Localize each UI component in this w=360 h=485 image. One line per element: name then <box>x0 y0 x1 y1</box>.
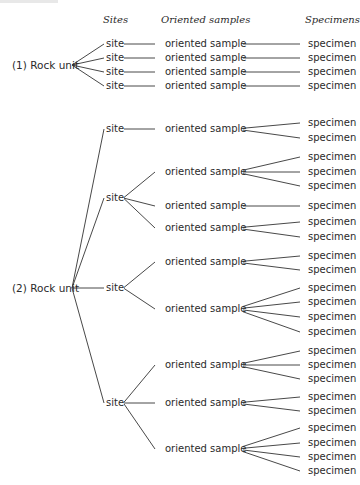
sample-to-specimen-line <box>243 312 300 332</box>
specimen-node: specimen <box>308 216 356 228</box>
site-node: site <box>106 123 124 135</box>
oriented-sample-node: oriented sample <box>165 80 246 92</box>
sample-to-specimen-line <box>243 229 300 237</box>
specimen-node: specimen <box>308 264 356 276</box>
specimen-node: specimen <box>308 80 356 92</box>
oriented-sample-node: oriented sample <box>165 200 246 212</box>
specimen-node: specimen <box>308 296 356 308</box>
specimen-node: specimen <box>308 166 356 178</box>
rock-to-site-line <box>72 198 104 288</box>
specimen-node: specimen <box>308 311 356 323</box>
specimen-node: specimen <box>308 465 356 477</box>
oriented-sample-node: oriented sample <box>165 66 246 78</box>
oriented-sample-node: oriented sample <box>165 359 246 371</box>
sample-to-specimen-line <box>243 123 300 128</box>
site-to-sample-line <box>124 365 155 402</box>
sample-to-specimen-line <box>243 157 300 170</box>
specimen-node: specimen <box>308 437 356 449</box>
site-to-sample-line <box>124 262 155 287</box>
specimen-node: specimen <box>308 282 356 294</box>
specimen-node: specimen <box>308 250 356 262</box>
sample-to-specimen-line <box>243 397 300 402</box>
oriented-sample-node: oriented sample <box>165 222 246 234</box>
sample-to-specimen-line <box>243 452 300 471</box>
specimen-node: specimen <box>308 200 356 212</box>
specimen-node: specimen <box>308 151 356 163</box>
rock-unit-1: (1) Rock unit <box>12 59 79 71</box>
specimen-node: specimen <box>308 451 356 463</box>
sample-to-specimen-line <box>243 174 300 186</box>
oriented-sample-node: oriented sample <box>165 303 246 315</box>
site-to-sample-line <box>124 288 155 309</box>
sample-to-specimen-line <box>243 263 300 270</box>
oriented-sample-node: oriented sample <box>165 443 246 455</box>
specimen-node: specimen <box>308 405 356 417</box>
specimen-node: specimen <box>308 132 356 144</box>
site-to-sample-line <box>124 199 155 228</box>
site-to-sample-line <box>124 172 155 197</box>
specimen-node: specimen <box>308 422 356 434</box>
site-node: site <box>106 192 124 204</box>
site-to-sample-line <box>124 198 155 206</box>
oriented-sample-node: oriented sample <box>165 397 246 409</box>
site-node: site <box>106 52 124 64</box>
specimen-node: specimen <box>308 391 356 403</box>
site-node: site <box>106 397 124 409</box>
rock-to-site-line <box>72 129 104 288</box>
rock-unit-2: (2) Rock unit <box>12 282 79 294</box>
specimen-node: specimen <box>308 345 356 357</box>
rock-to-site-line <box>72 288 104 403</box>
site-node: site <box>106 38 124 50</box>
specimen-node: specimen <box>308 373 356 385</box>
site-node: site <box>106 282 124 294</box>
site-node: site <box>106 80 124 92</box>
site-node: site <box>106 66 124 78</box>
oriented-sample-node: oriented sample <box>165 256 246 268</box>
oriented-sample-node: oriented sample <box>165 38 246 50</box>
specimen-node: specimen <box>308 38 356 50</box>
sample-to-specimen-line <box>243 288 300 306</box>
site-to-sample-line <box>124 404 155 449</box>
specimen-node: specimen <box>308 359 356 371</box>
oriented-sample-node: oriented sample <box>165 166 246 178</box>
sample-to-specimen-line <box>243 130 300 138</box>
sample-to-specimen-line <box>243 404 300 411</box>
sample-to-specimen-line <box>243 351 300 363</box>
oriented-sample-node: oriented sample <box>165 52 246 64</box>
sample-to-specimen-line <box>243 256 300 261</box>
specimen-node: specimen <box>308 231 356 243</box>
sample-to-specimen-line <box>243 222 300 227</box>
sample-to-specimen-line <box>243 450 300 457</box>
specimen-node: specimen <box>308 117 356 129</box>
sample-to-specimen-line <box>243 302 300 308</box>
sample-to-specimen-line <box>243 367 300 379</box>
specimen-node: specimen <box>308 52 356 64</box>
specimen-node: specimen <box>308 66 356 78</box>
sample-to-specimen-line <box>243 310 300 317</box>
oriented-sample-node: oriented sample <box>165 123 246 135</box>
specimen-node: specimen <box>308 326 356 338</box>
specimen-node: specimen <box>308 180 356 192</box>
